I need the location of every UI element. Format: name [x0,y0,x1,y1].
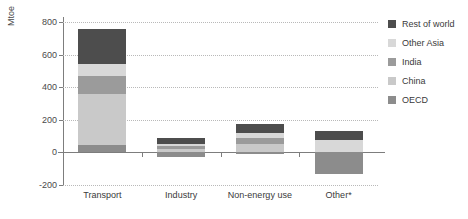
x-axis-label: Other* [326,190,352,200]
legend-item-label: Other Asia [402,38,444,48]
bar-segment[interactable] [78,29,126,64]
bar-segment[interactable] [157,138,205,144]
x-axis-label: Industry [165,190,197,200]
bar-group[interactable] [236,22,284,185]
bar-segment[interactable] [157,144,205,146]
chart-figure: Mtoe -2000200400600800TransportIndustryN… [0,0,468,219]
bar-segment[interactable] [78,94,126,145]
legend-swatch-icon [388,96,396,104]
y-axis-line [63,17,64,185]
bar-group[interactable] [315,22,363,185]
bar-segment[interactable] [236,133,284,138]
legend-swatch-icon [388,58,396,66]
y-axis-tick [59,185,63,186]
bar-segment[interactable] [157,152,205,157]
bar-segment[interactable] [236,124,284,133]
legend-swatch-icon [388,20,396,28]
legend-item-label: China [402,76,426,86]
bar-segment[interactable] [236,144,284,152]
legend-item-label: Rest of world [402,19,455,29]
y-axis-title: Mtoe [6,6,16,26]
y-axis-label: 800 [42,17,57,27]
x-axis-label: Transport [83,190,121,200]
bar-segment[interactable] [315,131,363,140]
bar-segment[interactable] [236,138,284,144]
legend-item[interactable]: India [388,52,468,71]
legend-swatch-icon [388,77,396,85]
x-axis-tick [299,152,300,157]
legend-item[interactable]: OECD [388,90,468,109]
bar-segment[interactable] [236,152,284,153]
legend-item[interactable]: China [388,71,468,90]
chart-legend: Rest of worldOther AsiaIndiaChinaOECD [388,14,468,109]
x-axis-tick [142,152,143,157]
y-axis-label: -200 [39,180,57,190]
y-axis-label: 200 [42,115,57,125]
y-axis-tick [59,87,63,88]
gridline [63,185,378,186]
bar-segment[interactable] [78,76,126,94]
x-axis-label: Non-energy use [228,190,292,200]
legend-item[interactable]: Other Asia [388,33,468,52]
bar-segment[interactable] [157,149,205,153]
bar-segment[interactable] [78,64,126,76]
legend-item-label: India [402,57,422,67]
bar-segment[interactable] [78,145,126,152]
y-axis-tick [59,120,63,121]
y-axis-label: 0 [52,147,57,157]
y-axis-label: 600 [42,50,57,60]
y-axis-tick [59,55,63,56]
x-axis-tick [221,152,222,157]
bar-segment[interactable] [315,140,363,152]
bar-segment[interactable] [315,152,363,173]
y-axis-tick [59,22,63,23]
legend-swatch-icon [388,39,396,47]
bar-segment[interactable] [157,146,205,149]
plot-area: -2000200400600800TransportIndustryNon-en… [63,22,378,185]
bar-group[interactable] [157,22,205,185]
bar-group[interactable] [78,22,126,185]
legend-item[interactable]: Rest of world [388,14,468,33]
y-axis-label: 400 [42,82,57,92]
legend-item-label: OECD [402,95,428,105]
